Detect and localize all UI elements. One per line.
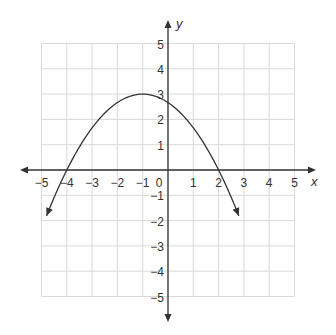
axes [20, 20, 316, 322]
curve-right-arrow-icon [233, 207, 240, 216]
y-axis-label: y [175, 16, 184, 31]
y-tick-label: −3 [150, 240, 164, 254]
x-tick-label: 3 [241, 176, 248, 190]
y-axis-up-arrow-icon [165, 20, 172, 28]
coordinate-plane: −5−4−3−2−101234554321−1−2−3−4−5 x y [0, 0, 336, 335]
y-tick-label: −2 [150, 215, 164, 229]
x-tick-label: 0 [156, 176, 163, 190]
y-tick-label: 5 [157, 38, 164, 52]
x-tick-label: −5 [35, 176, 49, 190]
x-axis-right-arrow-icon [308, 167, 316, 174]
y-tick-label: 1 [157, 139, 164, 153]
x-tick-label: 5 [291, 176, 298, 190]
tick-labels: −5−4−3−2−101234554321−1−2−3−4−5 [35, 38, 299, 305]
y-tick-label: 2 [157, 113, 164, 127]
y-tick-label: −1 [150, 189, 164, 203]
x-tick-label: 1 [190, 176, 197, 190]
x-axis-left-arrow-icon [20, 167, 28, 174]
x-tick-label: −2 [111, 176, 125, 190]
x-tick-label: −3 [85, 176, 99, 190]
x-tick-label: −4 [60, 176, 74, 190]
x-tick-label: 2 [215, 176, 222, 190]
x-tick-label: 4 [266, 176, 273, 190]
y-tick-label: 4 [157, 63, 164, 77]
y-axis-down-arrow-icon [165, 314, 172, 322]
y-tick-label: −4 [150, 265, 164, 279]
x-axis-label: x [310, 174, 318, 189]
y-tick-label: −5 [150, 291, 164, 305]
x-tick-label: −1 [136, 176, 150, 190]
curve-left-arrow-icon [46, 207, 53, 216]
